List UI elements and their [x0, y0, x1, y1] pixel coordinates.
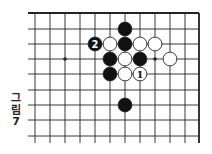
- white-stone-icon: [118, 52, 132, 66]
- move-number-label: 1: [137, 69, 144, 80]
- white-stone: [118, 67, 132, 81]
- white-stone-icon: [133, 37, 147, 51]
- white-stone: [118, 52, 132, 66]
- black-stone-icon: [118, 22, 132, 36]
- black-stone: [118, 98, 132, 112]
- black-stone-icon: [118, 37, 132, 51]
- white-stone-move-1: 1: [133, 67, 147, 81]
- black-stone-icon: [133, 52, 147, 66]
- white-stone: [133, 37, 147, 51]
- caption-char-1: 그: [8, 93, 24, 105]
- star-point-icon: [153, 57, 157, 61]
- star-point-icon: [63, 57, 67, 61]
- black-stone-move-2: 2: [88, 37, 102, 51]
- figure-caption: 그 림 7: [8, 93, 24, 128]
- white-stone: [163, 52, 177, 66]
- black-stone-icon: [103, 67, 117, 81]
- black-stone: [118, 37, 132, 51]
- black-stone: [133, 52, 147, 66]
- white-stone: [148, 37, 162, 51]
- white-stone-icon: [103, 37, 117, 51]
- go-board: 21: [0, 0, 212, 154]
- caption-number: 7: [8, 116, 24, 128]
- white-stone-icon: [118, 67, 132, 81]
- move-number-label: 2: [92, 39, 99, 50]
- black-stone-icon: [118, 98, 132, 112]
- stones: 21: [88, 22, 177, 112]
- black-stone: [103, 52, 117, 66]
- white-stone-icon: [163, 52, 177, 66]
- black-stone: [118, 22, 132, 36]
- black-stone-icon: [103, 52, 117, 66]
- white-stone: [103, 37, 117, 51]
- black-stone: [103, 67, 117, 81]
- white-stone-icon: [148, 37, 162, 51]
